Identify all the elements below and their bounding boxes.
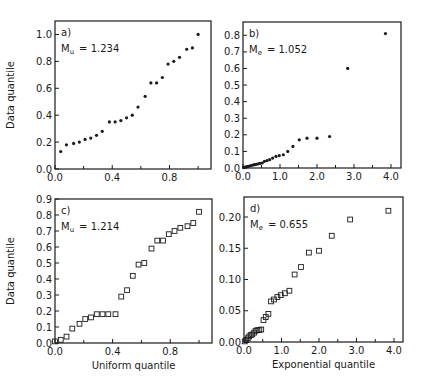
panel-label: a) [61, 27, 71, 38]
data-point [83, 317, 88, 322]
data-point [271, 156, 274, 159]
data-point [125, 288, 130, 293]
data-point [191, 221, 196, 226]
data-point [197, 33, 200, 36]
data-point [106, 312, 111, 317]
data-point [166, 62, 169, 65]
panel-a: 0.00.40.80.00.20.40.60.81.0Data quantile… [5, 21, 211, 183]
y-tick-label: 0.4 [224, 96, 240, 107]
statistic-annotation: Me= 1.052 [249, 44, 307, 57]
panel-label: c) [61, 205, 70, 216]
data-point [125, 116, 128, 119]
x-axis-label: Uniform quantile [92, 360, 176, 371]
statistic-annotation: Mu= 1.234 [61, 43, 119, 56]
y-axis-label: Data quantile [5, 237, 16, 305]
x-tick-label: 3.0 [346, 171, 362, 182]
data-point [384, 32, 387, 35]
data-point [299, 265, 304, 270]
y-tick-label: 0.00 [219, 337, 241, 348]
y-tick-label: 0.8 [36, 56, 52, 67]
y-tick-label: 0.6 [224, 63, 240, 74]
x-tick-label: 2.0 [309, 171, 325, 182]
y-tick-label: 0.0 [36, 164, 52, 175]
data-point [328, 135, 331, 138]
statistic-annotation: Mu= 1.214 [61, 221, 119, 234]
y-tick-label: 0.8 [36, 210, 52, 221]
x-tick-label: 4.0 [386, 345, 402, 356]
data-point [282, 153, 285, 156]
panel-c: 0.00.40.80.00.10.20.30.40.50.60.70.80.9D… [5, 194, 212, 372]
y-tick-label: 0.5 [224, 80, 240, 91]
y-tick-label: 0.6 [36, 242, 52, 253]
data-point [89, 136, 92, 139]
data-point [64, 334, 69, 339]
data-point [101, 130, 104, 133]
x-tick-label: 1.0 [272, 171, 288, 182]
data-point [72, 142, 75, 145]
data-point [166, 232, 171, 237]
data-point [315, 137, 318, 140]
data-point [268, 158, 271, 161]
y-tick-label: 0.15 [219, 243, 241, 254]
qq-plot-canvas: 0.00.40.80.00.20.40.60.81.0Data quantile… [0, 0, 423, 389]
x-tick-label: 0.8 [162, 172, 178, 183]
x-tick-label: 4.0 [383, 171, 399, 182]
y-tick-label: 0.9 [36, 194, 52, 205]
data-point [130, 273, 135, 278]
panel-d: 0.01.02.03.04.00.000.050.100.150.20Expon… [219, 197, 403, 370]
y-tick-label: 0.3 [36, 290, 52, 301]
data-point [161, 238, 166, 243]
data-point [197, 209, 202, 214]
y-tick-label: 0.10 [219, 274, 241, 285]
panel-label: b) [249, 28, 259, 39]
data-point [65, 143, 68, 146]
data-point [131, 114, 134, 117]
y-tick-label: 0.4 [36, 274, 52, 285]
data-point [136, 106, 139, 109]
y-tick-label: 0.2 [36, 137, 52, 148]
data-point [119, 119, 122, 122]
data-point [317, 248, 322, 253]
data-point [108, 120, 111, 123]
y-tick-label: 0.2 [224, 129, 240, 140]
data-point [172, 229, 177, 234]
data-point [113, 312, 118, 317]
data-point [78, 140, 81, 143]
data-point [306, 250, 311, 255]
y-tick-label: 0.20 [219, 212, 241, 223]
data-point [286, 150, 289, 153]
data-point [114, 120, 117, 123]
data-point [94, 312, 99, 317]
x-tick-label: 0.4 [104, 172, 120, 183]
data-point [58, 337, 63, 342]
x-tick-label: 2.0 [311, 345, 327, 356]
data-point [149, 81, 152, 84]
data-point [59, 150, 62, 153]
data-point [178, 56, 181, 59]
data-point [155, 238, 160, 243]
data-point [149, 246, 154, 251]
data-point [172, 60, 175, 63]
data-point [89, 315, 94, 320]
y-tick-label: 0.2 [36, 306, 52, 317]
y-tick-label: 0.6 [36, 83, 52, 94]
y-tick-label: 0.4 [36, 110, 52, 121]
y-tick-label: 0.1 [224, 146, 240, 157]
y-tick-label: 0.0 [36, 338, 52, 349]
data-point [119, 294, 124, 299]
data-point [242, 339, 247, 344]
y-tick-label: 0.05 [219, 305, 241, 316]
data-point [348, 217, 353, 222]
data-point [155, 81, 158, 84]
data-point [185, 224, 190, 229]
y-tick-label: 0.3 [224, 113, 240, 124]
data-point [386, 208, 391, 213]
data-point [278, 154, 281, 157]
data-point [346, 67, 349, 70]
data-point [136, 262, 141, 267]
data-point [274, 155, 277, 158]
qq-plot-figure: 0.00.40.80.00.20.40.60.81.0Data quantile… [0, 0, 423, 389]
y-axis-label: Data quantile [5, 61, 16, 129]
x-tick-label: 0.8 [162, 346, 178, 357]
data-point [144, 95, 147, 98]
